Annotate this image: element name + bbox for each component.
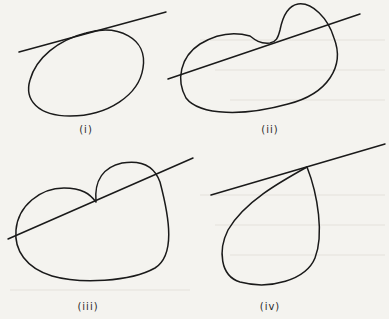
panel-iii bbox=[8, 158, 193, 281]
panel-i bbox=[19, 12, 166, 116]
panel-label-iii: (iii) bbox=[77, 301, 98, 312]
tangent-line-iv bbox=[211, 144, 385, 195]
cusp-curve-iii bbox=[16, 162, 169, 280]
figure: (i) (ii) (iii) (iv) bbox=[0, 0, 389, 319]
panel-iv bbox=[211, 144, 385, 285]
panel-ii bbox=[168, 4, 360, 113]
panel-label-ii: (ii) bbox=[261, 124, 278, 135]
oval-curve-i bbox=[29, 30, 144, 116]
kidney-curve-ii bbox=[181, 4, 338, 113]
secant-line-iii bbox=[8, 158, 193, 239]
paper-texture bbox=[10, 40, 385, 290]
panel-label-i: (i) bbox=[79, 124, 93, 135]
figure-canvas bbox=[0, 0, 389, 319]
panel-label-iv: (iv) bbox=[260, 301, 281, 312]
